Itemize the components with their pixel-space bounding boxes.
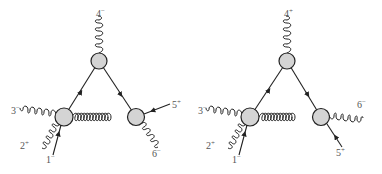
- label-5: 5+: [336, 146, 345, 158]
- arrow-icon: [153, 110, 156, 111]
- feynman-diagrams: 4− 3− 2+ 1− 5+ 6− 4+ 3−: [0, 0, 382, 174]
- label-3: 3−: [11, 104, 20, 116]
- label-1: 1−: [232, 153, 241, 165]
- vertex-blob-top: [279, 53, 295, 69]
- gluon-6: [142, 122, 158, 147]
- fermion-line-left-side: [250, 61, 287, 117]
- gluon-3: [206, 106, 242, 116]
- label-6: 6−: [152, 147, 161, 159]
- arrow-icon: [244, 134, 245, 136]
- arrow-icon: [336, 137, 337, 139]
- label-2: 2+: [20, 139, 29, 151]
- label-6: 6−: [357, 98, 366, 110]
- vertex-blob-top: [91, 53, 107, 69]
- vertex-blob-bottom-left: [241, 108, 259, 126]
- gluon-4: [283, 16, 291, 53]
- fermion-line-right-side: [287, 61, 321, 117]
- label-3: 3−: [198, 104, 207, 116]
- gluon-2: [42, 121, 59, 149]
- label-5: 5+: [172, 98, 181, 110]
- fermion-line-right-side: [99, 61, 136, 117]
- vertex-blob-bottom-left: [55, 108, 73, 126]
- fermion-5: [327, 124, 342, 147]
- fermion-1: [53, 125, 61, 155]
- fermion-line-left-side: [64, 61, 99, 117]
- arrow-icon: [58, 134, 59, 136]
- vertex-blob-bottom-right: [128, 109, 145, 126]
- label-4: 4−: [96, 7, 105, 19]
- vertex-blob-bottom-right: [313, 109, 330, 126]
- diagram-left: 4− 3− 2+ 1− 5+ 6−: [11, 7, 181, 165]
- diagram-right: 4+ 3− 2+ 1− 6− 5+: [198, 7, 366, 165]
- fermion-1: [239, 125, 247, 155]
- gluon-2: [228, 121, 245, 149]
- arrow-icon: [119, 92, 121, 95]
- gluon-internal: [72, 113, 111, 121]
- gluon-4: [95, 16, 103, 53]
- gluon-3: [20, 106, 56, 116]
- label-1: 1−: [46, 153, 55, 165]
- fermion-5: [144, 104, 170, 114]
- label-4: 4+: [284, 7, 293, 19]
- label-2: 2+: [206, 139, 215, 151]
- gluon-6: [329, 113, 363, 122]
- gluon-internal: [259, 113, 295, 121]
- arrow-icon: [306, 92, 308, 95]
